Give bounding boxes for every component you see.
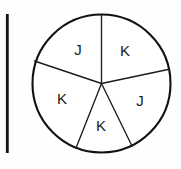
- sector-label-top-left: J: [74, 41, 82, 58]
- spinner-diagram-figure: J K K J K: [0, 0, 181, 169]
- sector-label-right: J: [136, 92, 144, 109]
- sector-label-top-right: K: [120, 42, 130, 59]
- sector-label-left: K: [57, 90, 67, 107]
- diagram-canvas: J K K J K: [0, 0, 181, 169]
- sector-label-bottom: K: [96, 117, 106, 134]
